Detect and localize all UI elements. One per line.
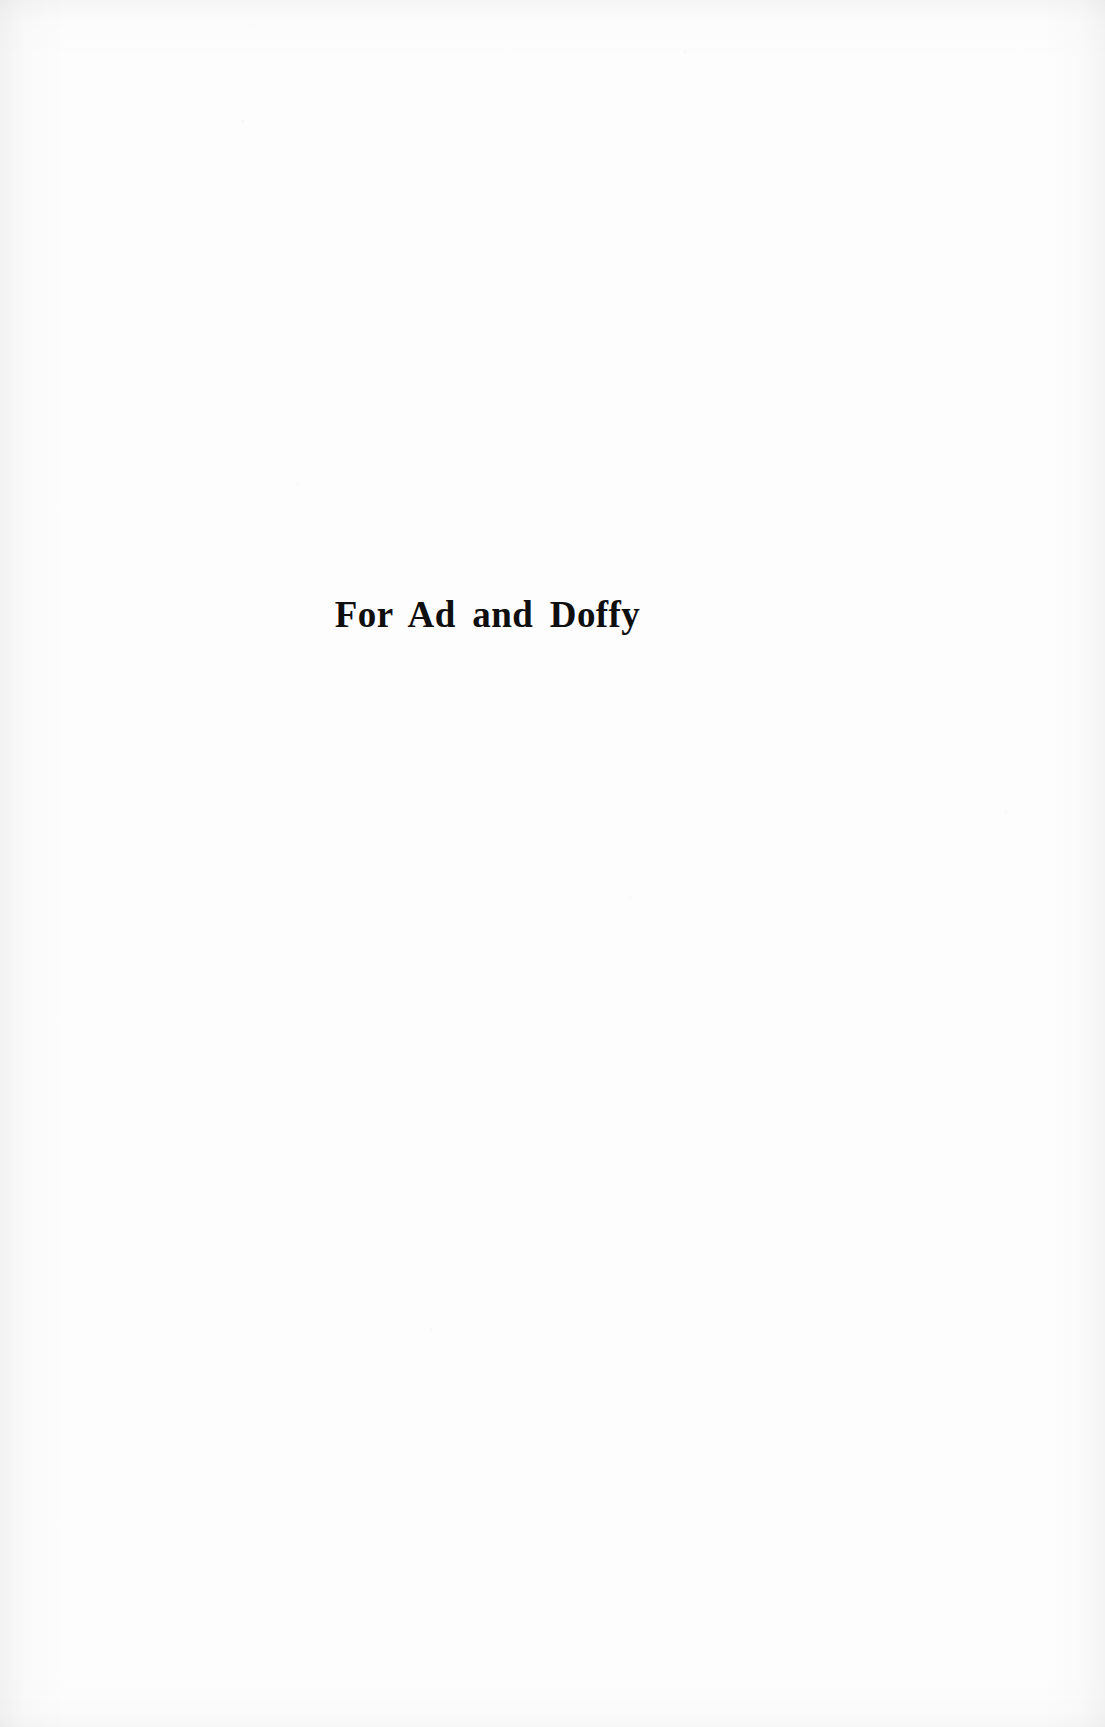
dedication-text: For Ad and Doffy	[335, 596, 640, 633]
scanned-book-page: For Ad and Doffy	[0, 0, 1105, 1727]
dedication-block: For Ad and Doffy	[0, 596, 975, 633]
scan-speckle-noise	[0, 0, 1105, 1727]
page-edge-shading	[0, 0, 1105, 1727]
